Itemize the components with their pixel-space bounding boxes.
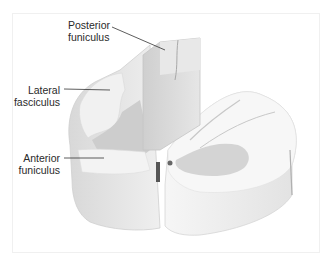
label-line: funiculus: [8, 164, 60, 176]
label-anterior-funiculus: Anterior funiculus: [8, 152, 60, 176]
label-line: Posterior: [68, 19, 110, 31]
label-lateral-fasciculus: Lateral fasciculus: [8, 84, 60, 108]
label-line: fasciculus: [8, 96, 60, 108]
posterior-leader-line: [112, 27, 165, 50]
label-line: Anterior: [8, 152, 60, 164]
spinal-cord-illustration: [0, 0, 331, 265]
label-line: funiculus: [68, 31, 110, 43]
label-line: Lateral: [8, 84, 60, 96]
label-posterior-funiculus: Posterior funiculus: [68, 19, 110, 43]
